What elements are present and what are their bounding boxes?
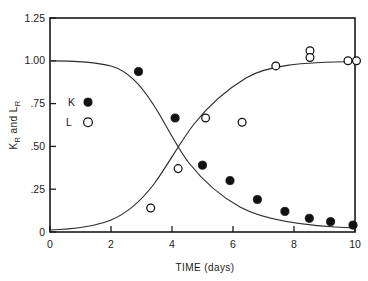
x-axis-tick-labels: 0 2 4 6 8 10	[47, 238, 361, 250]
x-ticklabel-2: 2	[108, 238, 114, 250]
x-ticklabel-10: 10	[349, 238, 361, 250]
k-curve	[50, 61, 355, 228]
legend-marker-open-circle-icon	[84, 118, 93, 127]
k-point-9	[349, 221, 357, 229]
y-ticklabel-075: .75	[30, 97, 45, 109]
l-curve	[50, 62, 355, 231]
x-ticklabel-4: 4	[169, 238, 175, 250]
l-point-2	[174, 165, 182, 173]
k-point-8	[327, 218, 335, 226]
svg-text:KR and LR: KR and LR	[8, 100, 22, 149]
chart-svg: 0 .25 .50 .75 1.00 1.25 0 2 4 6 8 10 TIM…	[0, 0, 368, 281]
l-point-7b	[353, 57, 361, 65]
l-data-points	[147, 47, 361, 212]
y-axis-ticks	[50, 18, 56, 232]
k-point-3	[198, 161, 206, 169]
k-point-5	[253, 195, 261, 203]
k-point-4	[226, 177, 234, 185]
l-point-4	[238, 118, 246, 126]
k-point-2	[171, 114, 179, 122]
k-point-1	[134, 68, 142, 76]
y-axis-title-l-sub: R	[13, 100, 22, 106]
x-ticklabel-8: 8	[291, 238, 297, 250]
legend-label-k: K	[68, 96, 76, 108]
y-ticklabel-125: 1.25	[25, 12, 46, 24]
x-axis-ticks	[50, 226, 355, 232]
x-axis-title: TIME (days)	[176, 262, 235, 273]
l-point-7a	[344, 57, 352, 65]
legend-label-l: L	[66, 116, 72, 128]
y-axis-title-and: and	[8, 116, 19, 134]
y-ticklabel-100: 1.00	[25, 54, 46, 66]
k-point-6	[281, 207, 289, 215]
y-axis-title-k: K	[8, 142, 19, 149]
k-point-7	[305, 214, 313, 222]
y-ticklabel-025: .25	[30, 183, 45, 195]
x-ticklabel-0: 0	[47, 238, 53, 250]
chart-figure: 0 .25 .50 .75 1.00 1.25 0 2 4 6 8 10 TIM…	[0, 0, 368, 281]
l-point-5	[272, 62, 280, 70]
l-point-1	[147, 204, 155, 212]
legend-marker-filled-circle-icon	[84, 98, 92, 106]
y-axis-title: KR and LR	[8, 100, 22, 149]
y-ticklabel-0: 0	[39, 226, 45, 238]
l-point-3	[202, 114, 210, 122]
y-axis-tick-labels: 0 .25 .50 .75 1.00 1.25	[25, 12, 46, 238]
x-ticklabel-6: 6	[230, 238, 236, 250]
chart-legend: K L	[66, 96, 92, 128]
l-point-6b	[306, 54, 314, 62]
y-ticklabel-050: .50	[30, 140, 45, 152]
k-data-points	[134, 68, 357, 230]
